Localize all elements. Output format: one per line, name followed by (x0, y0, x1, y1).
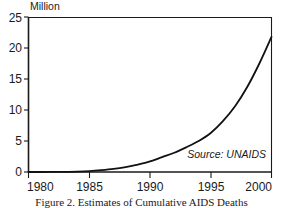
y-tick-label: 5 (15, 134, 22, 148)
y-axis-unit-label: Million (30, 0, 60, 12)
y-tick-label: 25 (9, 11, 23, 25)
y-tick-label: 15 (9, 72, 23, 86)
figure-container: Million 0 5 10 15 20 25 (0, 0, 283, 208)
x-tick-label: 2000 (245, 180, 272, 194)
source-annotation: Source: UNAIDS (187, 148, 266, 160)
figure-caption: Figure 2. Estimates of Cumulative AIDS D… (35, 196, 247, 208)
x-tick-label: 1990 (137, 180, 164, 194)
y-tick-label: 10 (9, 103, 23, 117)
x-tick-label: 1995 (198, 180, 225, 194)
x-tick-label: 1985 (76, 180, 103, 194)
aids-deaths-line-chart: Million 0 5 10 15 20 25 (0, 0, 283, 208)
x-tick-label: 1980 (27, 180, 54, 194)
y-tick-label: 20 (9, 41, 23, 55)
chart-background (0, 0, 283, 208)
y-tick-label: 0 (15, 165, 22, 179)
